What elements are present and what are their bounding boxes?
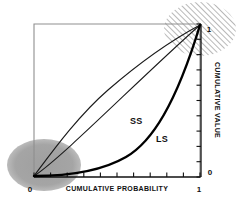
x-axis-max-label: 1 — [197, 185, 202, 194]
curve-labels: SS LS — [130, 116, 168, 144]
y-axis-max-label: 1 — [207, 25, 212, 34]
ss-curve-label: SS — [130, 116, 143, 126]
y-axis-min-label: 0 — [208, 168, 213, 177]
y-axis-title: CUMULATIVE VALUE — [214, 62, 221, 138]
x-axis-min-label: 0 — [28, 185, 33, 194]
figure-root: SS LS 0 1 0 1 CUMULATIVE PROBABILITY CUM… — [0, 0, 247, 212]
ls-curve-label: LS — [156, 134, 168, 144]
lorenz-curve-chart: SS LS 0 1 0 1 CUMULATIVE PROBABILITY CUM… — [0, 0, 247, 212]
x-axis-title: CUMULATIVE PROBABILITY — [66, 185, 168, 192]
axis-titles: CUMULATIVE PROBABILITY CUMULATIVE VALUE — [66, 62, 221, 192]
